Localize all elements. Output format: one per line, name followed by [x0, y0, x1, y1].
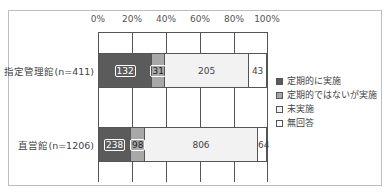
legend-item-not-implemented: 未実施	[276, 102, 377, 116]
x-tick-0: 0%	[91, 14, 105, 24]
value-label: 205	[197, 66, 216, 76]
legend-item-regular: 定期的に実施	[276, 74, 377, 88]
segment-not-implemented: 205	[165, 53, 249, 88]
segment-no-answer: 43	[249, 53, 267, 88]
x-tick-60: 60%	[190, 14, 210, 24]
legend-label: 無回答	[287, 116, 314, 130]
legend-label: 定期的に実施	[287, 74, 341, 88]
legend-swatch-white-icon	[276, 120, 283, 127]
segment-regular: 238	[98, 127, 131, 162]
value-label: 98	[130, 139, 145, 151]
segment-irregular: 98	[131, 127, 145, 162]
value-label: 238	[104, 139, 125, 151]
segment-regular: 132	[98, 53, 152, 88]
legend-swatch-gray-icon	[276, 92, 283, 99]
x-tick-80: 80%	[224, 14, 244, 24]
segment-not-implemented: 806	[145, 127, 258, 162]
x-tick-40: 40%	[156, 14, 176, 24]
legend-label: 定期的ではないが実施	[287, 88, 377, 102]
gridline-100	[267, 32, 268, 182]
x-axis-line	[98, 32, 267, 33]
value-label: 43	[251, 66, 264, 76]
legend: 定期的に実施 定期的ではないが実施 未実施 無回答	[276, 74, 377, 130]
bar-shitei: 132 31 205 43	[98, 53, 267, 88]
value-label: 132	[115, 65, 136, 77]
x-tick-100: 100%	[254, 14, 280, 24]
category-label-chokuei: 直営館(n=1206)	[18, 138, 94, 152]
segment-irregular: 31	[152, 53, 165, 88]
value-label: 31	[150, 65, 165, 77]
value-label: 806	[191, 140, 210, 150]
bar-chokuei: 238 98 806 64	[98, 127, 267, 162]
legend-item-no-answer: 無回答	[276, 116, 377, 130]
legend-swatch-dark-icon	[276, 78, 283, 85]
legend-swatch-light-icon	[276, 106, 283, 113]
segment-no-answer: 64	[258, 127, 267, 162]
legend-item-irregular: 定期的ではないが実施	[276, 88, 377, 102]
value-label: 64	[257, 140, 270, 150]
x-tick-20: 20%	[122, 14, 142, 24]
legend-label: 未実施	[287, 102, 314, 116]
category-label-shitei: 指定管理館(n=411)	[4, 64, 94, 78]
